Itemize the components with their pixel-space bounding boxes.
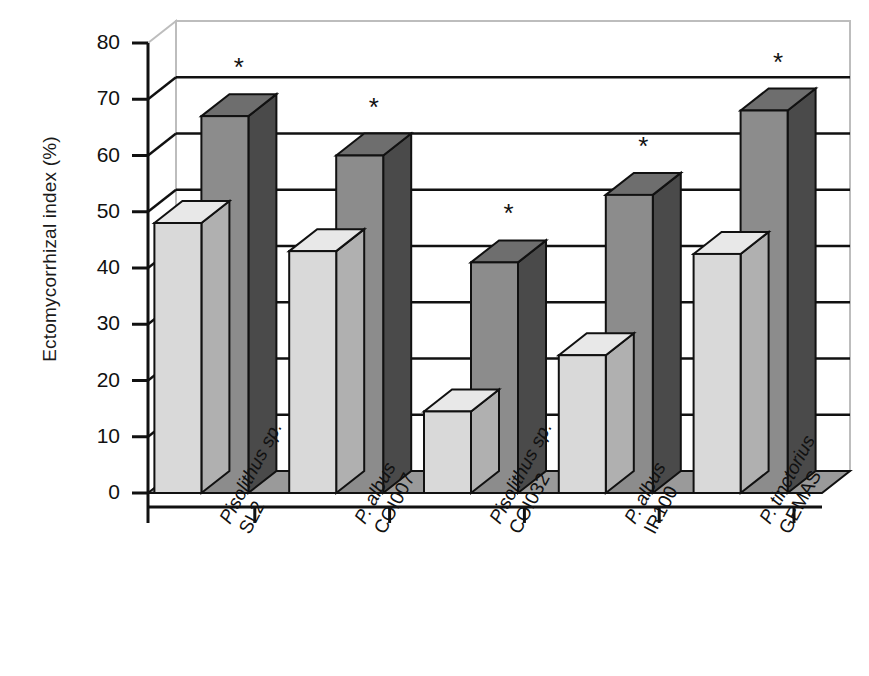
significance-asterisk: * bbox=[497, 200, 521, 226]
y-axis-tick-label: 0 bbox=[74, 480, 120, 504]
y-axis-tick-label: 40 bbox=[74, 255, 120, 279]
bar-light bbox=[289, 229, 364, 493]
bar-side-face bbox=[201, 201, 229, 493]
bar-front-face bbox=[154, 223, 201, 493]
bar-side-face bbox=[606, 333, 634, 493]
significance-asterisk: * bbox=[631, 133, 655, 159]
y-axis-tick-label: 60 bbox=[74, 143, 120, 167]
bar-front-face bbox=[559, 355, 606, 493]
y-axis-tick-label: 70 bbox=[74, 86, 120, 110]
y-axis-tick-label: 20 bbox=[74, 368, 120, 392]
significance-asterisk: * bbox=[227, 54, 251, 80]
bar-side-face bbox=[653, 173, 681, 493]
y-axis-tick-label: 30 bbox=[74, 311, 120, 335]
bar-light bbox=[694, 232, 769, 493]
significance-asterisk: * bbox=[362, 94, 386, 120]
significance-asterisk: * bbox=[766, 49, 790, 75]
bar-side-face bbox=[336, 229, 364, 493]
bar-front-face bbox=[694, 254, 741, 493]
bar-chart-svg bbox=[0, 0, 869, 676]
bar-side-face bbox=[741, 232, 769, 493]
bar-light bbox=[424, 389, 499, 493]
y-axis-tick-label: 80 bbox=[74, 30, 120, 54]
y-axis-tick-label: 10 bbox=[74, 424, 120, 448]
y-axis-tick-label: 50 bbox=[74, 199, 120, 223]
chart-figure: Ectomycorrhizal index (%) 01020304050607… bbox=[0, 0, 869, 676]
bar-front-face bbox=[424, 411, 471, 493]
bar-light bbox=[154, 201, 229, 493]
bar-light bbox=[559, 333, 634, 493]
bar-side-face bbox=[383, 134, 411, 494]
